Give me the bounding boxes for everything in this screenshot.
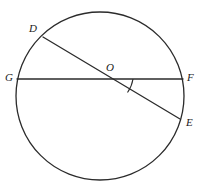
point-label-f: F xyxy=(187,72,194,83)
point-label-d: D xyxy=(29,23,37,34)
main-circle xyxy=(16,12,184,180)
geometry-figure: D G O F E xyxy=(0,0,206,191)
point-label-g: G xyxy=(5,72,13,83)
point-label-e: E xyxy=(186,117,193,128)
diameter-d-e xyxy=(43,37,180,119)
point-label-o: O xyxy=(106,62,114,73)
